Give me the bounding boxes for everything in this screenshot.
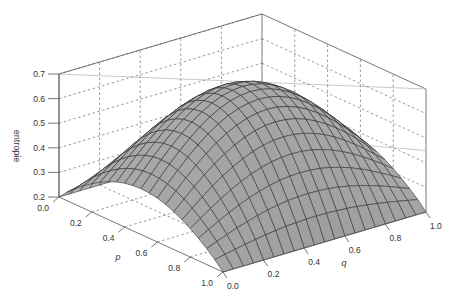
q-tick bbox=[345, 236, 349, 242]
q-tick bbox=[223, 272, 227, 278]
q-tick-label: 0.4 bbox=[308, 257, 320, 267]
p-tick-label: 0.2 bbox=[70, 218, 82, 228]
p-tick bbox=[53, 197, 59, 202]
surface-mesh bbox=[59, 81, 426, 272]
q-tick-label: 1.0 bbox=[430, 221, 442, 231]
p-tick-label: 1.0 bbox=[201, 278, 213, 288]
x-axis-title: p bbox=[114, 252, 120, 262]
q-tick bbox=[304, 248, 308, 254]
q-tick bbox=[385, 224, 389, 230]
p-tick bbox=[86, 212, 92, 217]
p-tick-label: 0.0 bbox=[37, 203, 49, 213]
z-tick-label: 0.4 bbox=[33, 143, 45, 153]
p-tick-label: 0.6 bbox=[136, 248, 148, 258]
z-tick-label: 0.7 bbox=[33, 69, 45, 79]
y-axis-title: q bbox=[341, 258, 346, 268]
p-tick bbox=[119, 227, 125, 232]
z-tick-label: 0.2 bbox=[33, 192, 45, 202]
z-tick-label: 0.5 bbox=[33, 118, 45, 128]
p-tick bbox=[151, 242, 157, 247]
surface-plot: 0.20.30.40.50.60.70.00.20.40.60.81.00.00… bbox=[0, 0, 454, 301]
q-tick-label: 0.6 bbox=[349, 245, 361, 255]
p-tick bbox=[217, 272, 223, 277]
z-axis-title: entropie bbox=[12, 130, 22, 163]
q-tick-label: 0.8 bbox=[389, 233, 401, 243]
q-tick bbox=[426, 212, 430, 218]
q-tick-label: 0.0 bbox=[227, 281, 239, 291]
q-tick bbox=[264, 260, 268, 266]
p-tick-label: 0.4 bbox=[103, 233, 115, 243]
q-tick-label: 0.2 bbox=[268, 269, 280, 279]
box-edge bbox=[262, 14, 426, 89]
p-tick bbox=[184, 257, 190, 262]
z-tick-label: 0.3 bbox=[33, 167, 45, 177]
p-tick-label: 0.8 bbox=[168, 263, 180, 273]
z-tick-label: 0.6 bbox=[33, 94, 45, 104]
